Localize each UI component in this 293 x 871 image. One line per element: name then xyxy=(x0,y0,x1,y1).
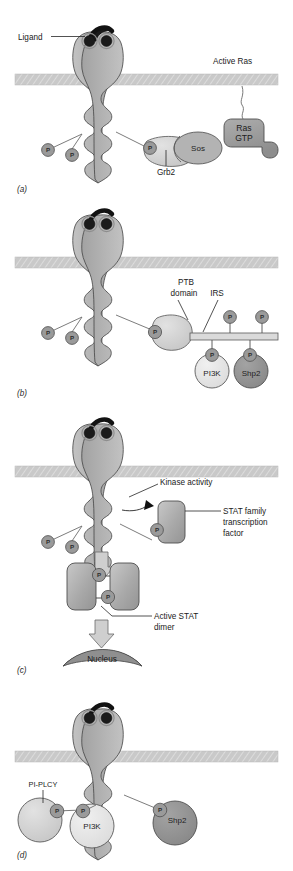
membrane-b xyxy=(15,257,278,268)
label-kinase-activity: Kinase activity xyxy=(160,478,213,487)
arrow-down-2 xyxy=(89,620,114,648)
svg-text:P: P xyxy=(148,144,152,151)
svg-text:P: P xyxy=(153,328,157,335)
stat-box xyxy=(158,501,185,543)
label-active-ras: Active Ras xyxy=(213,57,252,66)
label-stat-line2: transcription xyxy=(223,518,268,527)
sos-label: Sos xyxy=(191,144,205,153)
svg-text:P: P xyxy=(46,329,50,336)
label-stat-line1: STAT family xyxy=(223,507,267,516)
membrane-d xyxy=(15,751,278,762)
figure-canvas: Ligand P P Sos P Grb2 Ras GTP xyxy=(0,0,293,871)
svg-text:P: P xyxy=(46,146,50,153)
membrane-c xyxy=(15,466,278,477)
receptor-dimer-b xyxy=(73,215,124,366)
label-active-stat-line1: Active STAT xyxy=(154,612,198,621)
membrane-a xyxy=(15,74,278,85)
ras-label: Ras xyxy=(236,123,251,133)
shp2-label-d: Shp2 xyxy=(168,816,187,825)
label-ligand: Ligand xyxy=(18,33,43,42)
panel-a: Ligand P P Sos P Grb2 Ras GTP xyxy=(15,28,278,194)
svg-text:P: P xyxy=(210,351,214,358)
label-grb2: Grb2 xyxy=(157,168,176,177)
svg-text:P: P xyxy=(106,593,110,600)
panel-b: P P P PTB domain IRS P P P PI3K P S xyxy=(15,211,278,398)
svg-text:P: P xyxy=(55,807,59,814)
svg-text:P: P xyxy=(155,526,159,533)
panel-letter-c: (c) xyxy=(17,666,27,675)
label-pi-plc-gamma: PI-PLCY xyxy=(29,780,58,789)
svg-text:P: P xyxy=(228,313,232,320)
receptor-dimer-a xyxy=(73,32,124,183)
pi3k-label-b: PI3K xyxy=(203,369,221,378)
phospho-tails-a: P P xyxy=(42,134,82,161)
label-ptb-line1: PTB xyxy=(178,278,194,287)
label-active-stat-line2: dimer xyxy=(154,623,175,632)
svg-text:P: P xyxy=(158,806,162,813)
label-nucleus: Nucleus xyxy=(87,655,117,664)
panel-letter-d: (d) xyxy=(17,851,27,860)
pi3k-label-d: PI3K xyxy=(83,822,101,831)
svg-text:P: P xyxy=(70,151,74,158)
svg-text:P: P xyxy=(70,543,74,550)
panel-letter-a: (a) xyxy=(17,185,27,194)
panel-d: P PI-PLCY P PI3K P Shp2 (d) xyxy=(15,705,278,860)
shp2-label-b: Shp2 xyxy=(242,369,261,378)
label-ptb-line2: domain xyxy=(171,289,198,298)
label-irs: IRS xyxy=(210,289,224,298)
svg-text:P: P xyxy=(260,313,264,320)
svg-text:P: P xyxy=(97,571,101,578)
phospho-tails-c: P P xyxy=(42,526,82,553)
irs-bar xyxy=(190,333,278,340)
svg-text:P: P xyxy=(46,538,50,545)
phospho-tails-b: P P xyxy=(42,317,82,344)
gtp-label: GTP xyxy=(235,133,253,143)
panel-c: P P Kinase activity P STAT family transc… xyxy=(15,420,278,675)
signaling-diagram: Ligand P P Sos P Grb2 Ras GTP xyxy=(0,0,293,871)
label-stat-line3: factor xyxy=(223,529,244,538)
stat-dimer: P P xyxy=(67,563,139,610)
ras-gtp-box: Ras GTP xyxy=(224,86,278,158)
svg-text:P: P xyxy=(70,334,74,341)
panel-letter-b: (b) xyxy=(17,389,27,398)
svg-text:P: P xyxy=(248,351,252,358)
svg-text:P: P xyxy=(81,807,85,814)
